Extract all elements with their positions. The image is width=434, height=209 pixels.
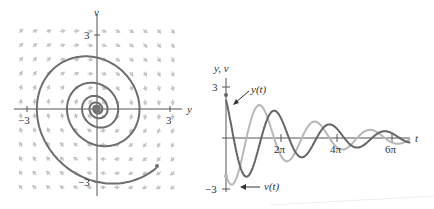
field-arrowhead-icon <box>33 114 36 117</box>
field-arrowhead-icon <box>62 44 65 47</box>
v-curve <box>226 105 410 185</box>
field-arrowhead-icon <box>48 44 51 46</box>
field-arrowhead-icon <box>171 116 174 119</box>
field-arrowhead-icon <box>144 116 147 119</box>
yv-axis-label: y, v <box>213 62 229 74</box>
field-arrowhead-icon <box>101 172 104 175</box>
field-arrowhead-icon <box>129 172 132 175</box>
field-arrowhead-icon <box>88 158 91 161</box>
equilibrium-point <box>94 106 100 112</box>
field-arrowhead-icon <box>76 58 79 61</box>
field-arrowhead-icon <box>130 116 133 119</box>
field-arrowhead-icon <box>143 186 146 189</box>
field-arrowhead-icon <box>129 186 132 189</box>
field-arrowhead-icon <box>20 143 23 146</box>
field-arrowhead-icon <box>143 172 146 174</box>
field-arrowhead-icon <box>158 88 161 91</box>
initial-point <box>155 164 159 168</box>
field-arrowhead-icon <box>76 30 79 33</box>
field-arrowhead-icon <box>158 102 161 105</box>
phase-x-tick-3: 3 <box>166 114 172 126</box>
field-arrowhead-icon <box>171 130 174 133</box>
field-arrowhead-icon <box>76 44 79 47</box>
field-arrowhead-icon <box>62 30 65 33</box>
field-arrowhead-icon <box>20 72 23 75</box>
field-arrowhead-icon <box>61 100 64 103</box>
field-arrowhead-icon <box>144 87 147 90</box>
field-arrowhead-icon <box>171 73 174 76</box>
v-arrowhead-icon <box>240 184 246 190</box>
field-arrowhead-icon <box>130 102 133 105</box>
field-arrowhead-icon <box>74 186 77 189</box>
field-arrowhead-icon <box>101 158 104 161</box>
field-arrowhead-icon <box>90 58 93 61</box>
field-arrowhead-icon <box>88 129 91 132</box>
field-arrowhead-icon <box>75 114 78 117</box>
field-arrowhead-icon <box>90 30 93 33</box>
tick-label-2pi: 2π <box>274 143 286 155</box>
field-arrowhead-icon <box>101 186 104 189</box>
field-arrowhead-icon <box>158 116 161 119</box>
y-curve-label: y(t) <box>250 83 267 96</box>
v-curve-label: v(t) <box>264 180 280 193</box>
field-arrowhead-icon <box>47 100 50 103</box>
field-arrowhead-icon <box>171 102 174 105</box>
phase-y-label: v <box>94 6 99 18</box>
phase-y-tick-3: 3 <box>84 29 90 41</box>
phase-x-tick-neg3: −3 <box>18 114 30 126</box>
field-arrowhead-icon <box>171 144 174 147</box>
time-plot: y, v t 3 −3 2π 4π 6π y(t) v(t) <box>205 62 419 195</box>
field-arrowhead-icon <box>101 129 104 132</box>
field-arrowhead-icon <box>171 88 174 91</box>
field-arrowhead-icon <box>47 114 50 117</box>
field-arrowhead-icon <box>144 102 147 105</box>
field-arrowhead-icon <box>61 114 64 117</box>
y-initial-point <box>224 93 228 97</box>
field-arrowhead-icon <box>158 73 161 76</box>
v-initial-point <box>224 174 228 178</box>
figure-canvas: y v −3 3 3 −3 y, v t 3 −3 2π 4π 6π y(t) … <box>0 0 434 209</box>
field-arrowhead-icon <box>115 172 118 175</box>
tick-label-3: 3 <box>212 81 218 93</box>
field-arrowhead-icon <box>33 128 36 131</box>
field-arrowhead-icon <box>76 72 79 75</box>
field-arrowhead-icon <box>144 73 147 76</box>
field-arrowhead-icon <box>75 100 78 103</box>
field-arrowhead-icon <box>90 87 93 90</box>
field-arrowhead-icon <box>103 30 106 33</box>
field-arrowhead-icon <box>158 130 161 133</box>
field-arrowhead-icon <box>47 86 50 89</box>
field-arrowhead-icon <box>33 143 36 146</box>
field-arrowhead-icon <box>172 59 174 62</box>
phase-x-label: y <box>186 103 192 115</box>
field-arrowhead-icon <box>115 186 118 189</box>
field-arrowhead-icon <box>74 158 77 161</box>
field-arrowhead-icon <box>103 72 106 75</box>
field-arrowhead-icon <box>144 130 147 133</box>
page-edge-shadow <box>270 196 434 205</box>
t-axis-label: t <box>415 132 419 144</box>
field-arrowhead-icon <box>129 158 132 161</box>
field-arrowhead-icon <box>88 172 91 175</box>
phase-plane: y v −3 3 3 −3 <box>14 6 192 196</box>
field-arrowhead-icon <box>117 30 120 33</box>
phase-y-tick-neg3: −3 <box>78 176 90 188</box>
field-arrowhead-icon <box>117 44 120 46</box>
field-arrowhead-icon <box>130 87 133 90</box>
field-arrowhead-icon <box>20 157 23 160</box>
field-arrowhead-icon <box>20 128 23 131</box>
field-arrowhead-icon <box>47 128 50 131</box>
field-arrowhead-icon <box>33 86 36 89</box>
tick-label-4pi: 4π <box>330 143 342 155</box>
tick-label-6pi: 6π <box>385 143 397 155</box>
field-arrowhead-icon <box>115 158 118 161</box>
field-arrowhead-icon <box>90 44 93 47</box>
field-arrowhead-icon <box>48 30 51 33</box>
field-arrowhead-icon <box>19 100 22 103</box>
field-arrowhead-icon <box>90 72 93 75</box>
field-arrowhead-icon <box>61 128 64 131</box>
field-arrowhead-icon <box>20 86 23 89</box>
tick-label-neg3: −3 <box>205 183 217 195</box>
field-arrowhead-icon <box>33 100 36 103</box>
field-arrowhead-icon <box>103 44 106 47</box>
